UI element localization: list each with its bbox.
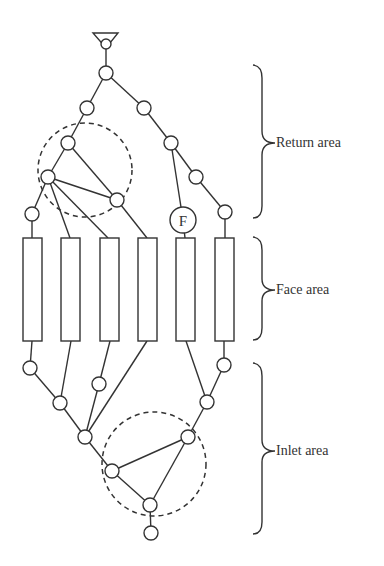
node — [53, 396, 67, 410]
inlet-area-nodes — [23, 358, 231, 540]
node — [181, 430, 195, 444]
node — [105, 464, 119, 478]
node — [143, 498, 157, 512]
node — [217, 358, 231, 372]
node — [144, 526, 158, 540]
face-area-coils — [23, 238, 234, 341]
node — [25, 207, 39, 221]
node — [189, 170, 203, 184]
node — [99, 66, 113, 80]
node — [61, 136, 75, 150]
node — [92, 377, 106, 391]
face-area-brace — [253, 237, 275, 340]
source-triangle-icon — [93, 33, 118, 49]
coil-5 — [176, 238, 195, 341]
node — [137, 101, 151, 115]
face-area-label: Face area — [276, 282, 329, 298]
node — [78, 430, 92, 444]
node — [80, 101, 94, 115]
fan-node: F — [170, 207, 196, 233]
fan-node-label: F — [179, 213, 187, 229]
coil-6 — [215, 238, 234, 341]
coil-3 — [100, 238, 119, 341]
node — [23, 361, 37, 375]
node — [200, 395, 214, 409]
return-area-label: Return area — [276, 135, 341, 151]
return-area-brace — [253, 65, 275, 218]
node — [41, 170, 55, 184]
inlet-area-brace — [253, 363, 275, 534]
coil-1 — [23, 238, 42, 341]
coil-2 — [61, 238, 80, 341]
node — [110, 193, 124, 207]
node — [218, 205, 232, 219]
coil-4 — [138, 238, 157, 341]
node — [164, 136, 178, 150]
inlet-area-label: Inlet area — [276, 443, 328, 459]
